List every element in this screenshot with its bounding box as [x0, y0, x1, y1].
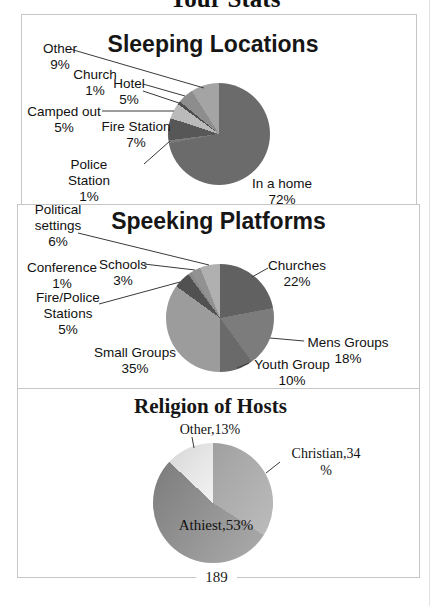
label-in-a-home: In a home 72%: [242, 176, 322, 205]
chart-title-religion-of-hosts: Religion of Hosts: [18, 394, 419, 419]
page-number: 189: [196, 569, 237, 586]
page-footer: 189: [0, 568, 433, 586]
label-fire-police-stations: Fire/Police Stations 5%: [30, 290, 106, 338]
label-churches: Churches 22%: [264, 258, 330, 290]
scan-edge-artifact: [429, 0, 430, 606]
label-hotel: Hotel 5%: [106, 76, 152, 108]
chart-frame-speeking-platforms: Speeking Platforms Political settings 6%…: [17, 204, 420, 389]
page-title-your-stats: Your Stats: [169, 0, 280, 11]
pie-chart-religion-of-hosts: [153, 443, 273, 563]
label-camped-out: Camped out 5%: [26, 104, 102, 136]
scanned-stats-page: { "page": { "top_title": "Your Stats", "…: [0, 0, 433, 606]
label-youth-group: Youth Group 10%: [242, 357, 342, 389]
label-other: Other,13%: [162, 422, 258, 439]
chart-frame-sleeping-locations: Sleeping Locations Other 9% Church 1% Ho…: [21, 14, 417, 205]
label-christian: Christian,34 %: [274, 446, 378, 479]
label-small-groups: Small Groups 35%: [80, 345, 190, 377]
label-political-settings: Political settings 6%: [26, 204, 90, 250]
leader-line-schools: [144, 264, 195, 270]
label-schools: Schools 3%: [98, 257, 148, 289]
label-fire-station: Fire Station 7%: [98, 119, 174, 151]
label-athiest: Athiest,53%: [158, 517, 274, 535]
label-conference: Conference 1%: [24, 260, 100, 292]
label-police-station: Police Station 1%: [62, 157, 116, 205]
pie-chart-sleeping-locations: [168, 83, 270, 185]
chart-frame-religion-of-hosts: Religion of Hosts Other,13% Christian,34…: [17, 388, 420, 578]
